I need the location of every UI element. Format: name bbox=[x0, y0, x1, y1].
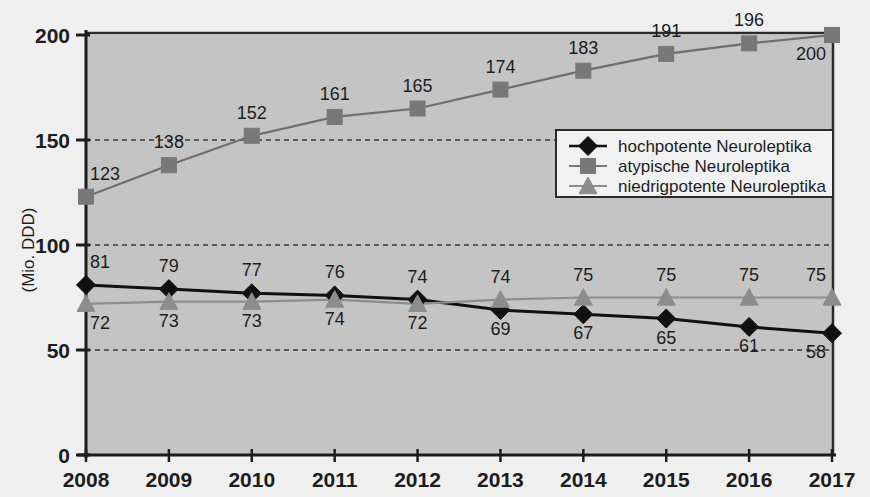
data-label-s2-2010: 73 bbox=[242, 311, 262, 331]
y-tick-label-50: 50 bbox=[47, 339, 70, 362]
series-1-marker-2016 bbox=[742, 36, 757, 51]
data-label-s0-2015: 65 bbox=[656, 328, 676, 348]
data-label-s2-2015: 75 bbox=[656, 265, 676, 285]
data-label-s0-2011: 76 bbox=[325, 262, 345, 282]
chart-container: 050100150200 200820092010201120122013201… bbox=[0, 0, 870, 497]
square-icon bbox=[581, 159, 596, 174]
series-1-marker-2014 bbox=[576, 63, 591, 78]
data-label-s2-2011: 74 bbox=[325, 309, 345, 329]
data-label-s1-2009: 138 bbox=[154, 132, 184, 152]
x-tick-label-2012: 2012 bbox=[394, 468, 441, 491]
x-tick-label-2015: 2015 bbox=[643, 468, 690, 491]
y-tick-label-0: 0 bbox=[58, 444, 70, 467]
data-label-s1-2010: 152 bbox=[237, 103, 267, 123]
data-label-s2-2017: 75 bbox=[806, 265, 826, 285]
data-label-s1-2008: 123 bbox=[90, 164, 120, 184]
x-tick-label-2008: 2008 bbox=[63, 468, 110, 491]
data-label-s1-2014: 183 bbox=[568, 38, 598, 58]
series-1-marker-2017 bbox=[825, 28, 840, 43]
data-label-s0-2013: 69 bbox=[490, 319, 510, 339]
y-tick-label-150: 150 bbox=[35, 129, 70, 152]
data-label-s2-2014: 75 bbox=[573, 265, 593, 285]
x-tick-label-2009: 2009 bbox=[146, 468, 193, 491]
x-tick-label-2017: 2017 bbox=[809, 468, 856, 491]
series-1-marker-2010 bbox=[244, 128, 259, 143]
y-tick-label-200: 200 bbox=[35, 24, 70, 47]
legend-label-1[interactable]: atypische Neuroleptika bbox=[618, 157, 791, 176]
data-label-s0-2016: 61 bbox=[739, 336, 759, 356]
data-label-s2-2016: 75 bbox=[739, 265, 759, 285]
x-tick-label-2014: 2014 bbox=[560, 468, 607, 491]
series-1-marker-2009 bbox=[161, 158, 176, 173]
data-label-s1-2011: 161 bbox=[320, 84, 350, 104]
data-label-s1-2016: 196 bbox=[734, 10, 764, 30]
data-label-s1-2017: 200 bbox=[796, 44, 826, 64]
data-label-s0-2012: 74 bbox=[408, 267, 428, 287]
data-label-s2-2009: 73 bbox=[159, 311, 179, 331]
series-1-marker-2013 bbox=[493, 82, 508, 97]
line-chart: 050100150200 200820092010201120122013201… bbox=[0, 0, 870, 497]
data-label-s0-2008: 81 bbox=[90, 252, 110, 272]
data-label-s2-2008: 72 bbox=[90, 313, 110, 333]
data-label-s2-2012: 72 bbox=[408, 313, 428, 333]
legend-label-2[interactable]: niedrigpotente Neuroleptika bbox=[618, 177, 826, 196]
data-label-s1-2013: 174 bbox=[485, 57, 515, 77]
series-1-marker-2011 bbox=[327, 109, 342, 124]
x-tick-label-2016: 2016 bbox=[726, 468, 773, 491]
x-tick-label-2013: 2013 bbox=[477, 468, 524, 491]
data-label-s0-2010: 77 bbox=[242, 260, 262, 280]
data-label-s2-2013: 74 bbox=[490, 267, 510, 287]
data-label-s0-2017: 58 bbox=[806, 342, 826, 362]
y-tick-label-100: 100 bbox=[35, 234, 70, 257]
series-1-marker-2015 bbox=[659, 46, 674, 61]
x-tick-label-2010: 2010 bbox=[228, 468, 275, 491]
legend-label-0[interactable]: hochpotente Neuroleptika bbox=[618, 137, 812, 156]
data-label-s0-2014: 67 bbox=[573, 323, 593, 343]
data-label-s1-2012: 165 bbox=[403, 76, 433, 96]
x-tick-label-2011: 2011 bbox=[312, 468, 358, 491]
series-1-marker-2008 bbox=[79, 189, 94, 204]
series-1-marker-2012 bbox=[410, 101, 425, 116]
y-axis-title: (Mio. DDD) bbox=[19, 208, 38, 293]
chart-legend[interactable]: hochpotente Neuroleptikaatypische Neurol… bbox=[556, 130, 833, 197]
data-label-s1-2015: 191 bbox=[651, 21, 681, 41]
data-label-s0-2009: 79 bbox=[159, 256, 179, 276]
